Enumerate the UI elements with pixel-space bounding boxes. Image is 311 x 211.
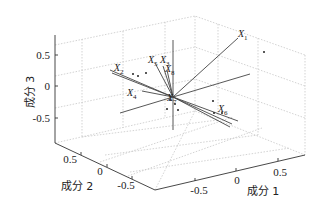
label-X1: X1 [237,28,248,42]
y-tick: -0.5 [117,179,135,191]
z-axis-label: 成分 3 [24,76,37,109]
vector-labels: X1 X2 X3 X4 X5 X6 X7 X8 [113,28,248,117]
y-tick: 0.5 [63,153,77,165]
origin-axes [120,40,250,130]
x-tick: 0.5 [273,166,287,178]
label-X5: X5 [147,54,158,68]
x-tick: 0 [234,174,240,186]
axes [55,35,305,190]
x-axis-label: 成分 1 [247,185,280,198]
y-tick: 0 [97,165,103,177]
y-axis-label: 成分 2 [61,180,94,193]
z-tick: 0.5 [36,49,50,61]
label-X4: X4 [126,87,137,101]
label-X7: X7 [166,92,177,106]
z-tick: -0.5 [33,112,51,124]
biplot-3d: 0.5 0 -0.5 0.5 0 -0.5 -0.5 0 0.5 成分 3 成分… [0,0,311,211]
z-tick: 0 [45,80,51,92]
x-tick: -0.5 [190,184,208,196]
